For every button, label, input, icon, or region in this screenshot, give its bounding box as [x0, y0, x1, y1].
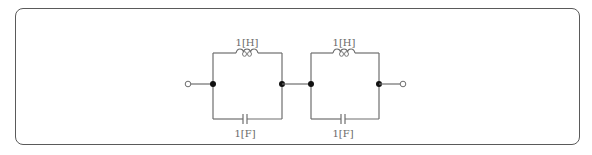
- right-terminal: [379, 81, 406, 87]
- capacitor-label: 1[F]: [332, 128, 353, 139]
- inductor-icon: [333, 49, 355, 56]
- capacitor-icon: [341, 114, 345, 124]
- lc-section-2: 1[H] 1[F]: [308, 37, 382, 139]
- capacitor-label: 1[F]: [234, 128, 255, 139]
- inductor-label: 1[H]: [333, 37, 356, 48]
- inductor-icon: [236, 49, 258, 56]
- inductor-label: 1[H]: [236, 37, 259, 48]
- junction-node: [210, 81, 216, 87]
- circuit-diagram: 1[H] 1[F] 1[H] 1[F]: [0, 0, 592, 155]
- left-terminal: [185, 81, 213, 87]
- capacitor-icon: [243, 114, 247, 124]
- lc-section-1: 1[H] 1[F]: [210, 37, 285, 139]
- junction-node: [308, 81, 314, 87]
